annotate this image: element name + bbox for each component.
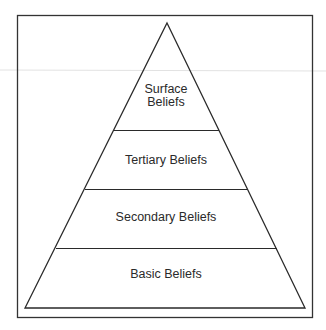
level-label-surface-line1: Surface [144,82,187,96]
pyramid-diagram: Surface Beliefs Tertiary Beliefs Seconda… [0,0,326,330]
level-label-basic: Basic Beliefs [130,267,202,281]
level-label-secondary: Secondary Beliefs [116,210,217,224]
scan-artifact-line [0,70,326,71]
level-label-tertiary: Tertiary Beliefs [125,153,207,167]
level-label-surface-line2: Beliefs [147,95,185,109]
